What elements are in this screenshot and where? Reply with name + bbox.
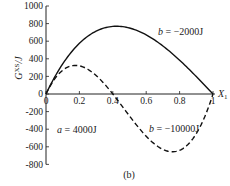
y-tick-label: -800 (26, 160, 44, 170)
y-tick-label: 1000 (24, 1, 43, 11)
x-tick-label: 0.6 (140, 96, 152, 106)
y-tick-label: 200 (29, 72, 44, 82)
annotation-b-solid: b = −2000J (158, 26, 203, 37)
chart: 10008006004002000-200-400-600-80000.20.4… (0, 0, 230, 186)
y-tick-label: 0 (38, 89, 43, 99)
y-tick-label: 600 (29, 36, 44, 46)
figure-caption: (b) (123, 169, 135, 181)
x-tick-label: 0.2 (73, 96, 85, 106)
curve-b-minus-10000 (46, 65, 213, 151)
annotation-b-dashed: b = −10000J (149, 123, 199, 134)
x-tick-label: 0.4 (107, 96, 119, 106)
y-tick-label: -200 (26, 107, 44, 117)
x-tick-label: 0.8 (174, 96, 186, 106)
y-tick-label: -400 (26, 124, 44, 134)
x-tick-label: 0 (44, 96, 49, 106)
y-tick-label: -600 (26, 142, 44, 152)
y-axis-label: GXS/J (13, 56, 24, 80)
y-tick-label: 800 (29, 19, 44, 29)
annotation-a: a = 4000J (57, 124, 97, 135)
y-tick-label: 400 (29, 54, 44, 64)
x-axis-label: X1 (217, 88, 228, 101)
